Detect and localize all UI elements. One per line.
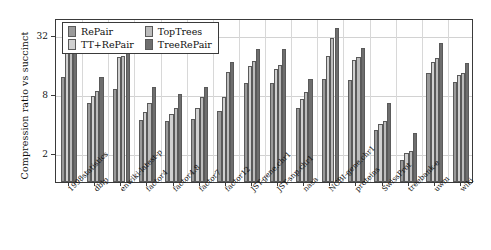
gridline-vertical [343,20,344,182]
y-tick-mark [51,95,55,96]
legend-label: TopTrees [158,26,202,37]
legend-swatch-icon [145,26,153,37]
y-axis-title: Compression ratio vs succinct [19,16,30,196]
bar [126,49,130,182]
bar [152,87,156,182]
gridline-vertical [291,20,292,182]
gridline-vertical [396,20,397,182]
legend-swatch-icon [68,39,76,50]
gridline-vertical [317,20,318,182]
legend-entry: TreeRePair [145,39,212,50]
bar [335,28,339,182]
legend-swatch-icon [68,26,76,37]
bar [465,63,469,182]
bar-group [400,20,417,182]
bar [178,94,182,182]
bar [230,62,234,182]
legend-entry: RePair [68,26,134,37]
legend-label: TT+RePair [81,39,134,50]
bar-group [453,20,470,182]
bar [99,77,103,182]
y-tick-mark [51,36,55,37]
gridline-vertical [422,20,423,182]
legend-swatch-icon [145,39,153,50]
gridline-vertical [370,20,371,182]
legend-label: TreeRePair [158,39,212,50]
bar [308,79,312,182]
bar [387,103,391,182]
y-tick-label: 32 [8,31,48,41]
bar-group [322,20,339,182]
bar [439,43,443,182]
bar-group [374,20,391,182]
bar [256,49,260,182]
legend-entry: TopTrees [145,26,212,37]
legend-label: RePair [81,26,113,37]
chart-legend: RePairTopTreesTT+RePairTreeRePair [62,22,219,54]
bar-chart: Compression ratio vs succinct 2832 1998s… [0,0,491,250]
bar-group [217,20,234,182]
bar-group [244,20,261,182]
y-tick-label: 2 [8,149,48,159]
bar [204,87,208,182]
y-tick-mark [51,154,55,155]
gridline-vertical [448,20,449,182]
bar [73,39,77,182]
gridline-vertical [265,20,266,182]
gridline-vertical [239,20,240,182]
legend-entry: TT+RePair [68,39,134,50]
y-tick-label: 8 [8,90,48,100]
